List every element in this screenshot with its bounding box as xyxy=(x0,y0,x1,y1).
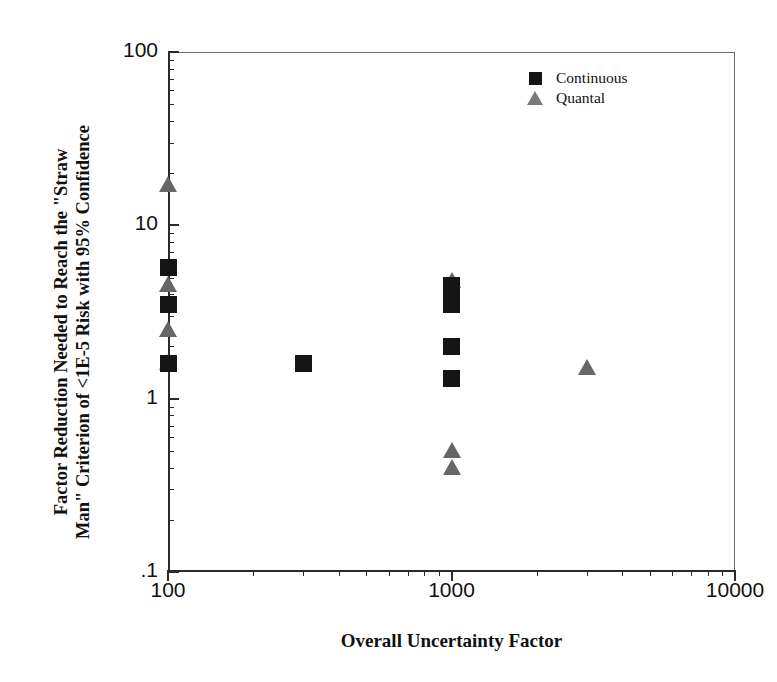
y-axis-tick-minor xyxy=(168,426,174,427)
y-axis-title-line2: Man" Criterion of <1E-5 Risk with 95% Co… xyxy=(73,125,93,539)
x-axis-tick-label: 100 xyxy=(113,578,223,602)
y-axis-tick-major xyxy=(168,571,179,573)
y-axis-tick-minor xyxy=(168,90,174,91)
square-marker-icon xyxy=(522,72,548,85)
data-point-continuous xyxy=(160,259,177,276)
x-axis-tick-minor xyxy=(672,570,673,576)
legend-label-continuous: Continuous xyxy=(548,69,627,87)
x-axis-tick-minor xyxy=(587,570,588,576)
data-point-continuous xyxy=(443,296,460,313)
x-axis-tick-label: 10000 xyxy=(680,578,777,602)
data-point-continuous xyxy=(443,338,460,355)
scan-artifact-band xyxy=(0,0,777,26)
x-axis-title: Overall Uncertainty Factor xyxy=(168,630,735,652)
y-axis-title-line1: Factor Reduction Needed to Reach the "St… xyxy=(51,149,71,516)
y-axis-tick-label: 10 xyxy=(96,211,158,235)
y-axis-tick-minor xyxy=(168,489,174,490)
data-point-continuous xyxy=(443,370,460,387)
data-point-quantal xyxy=(159,321,177,337)
y-axis-tick-label: 1 xyxy=(96,385,158,409)
legend-item-continuous: Continuous xyxy=(522,68,627,88)
legend-item-quantal: Quantal xyxy=(522,88,627,108)
y-axis-tick-minor xyxy=(168,104,174,105)
x-axis-tick-minor xyxy=(389,570,390,576)
y-axis-tick-minor xyxy=(168,407,174,408)
data-point-continuous xyxy=(160,355,177,372)
y-axis-tick-label: 100 xyxy=(96,38,158,62)
data-point-quantal xyxy=(443,459,461,475)
y-axis-tick-minor xyxy=(168,69,174,70)
y-axis-tick-minor xyxy=(168,468,174,469)
x-axis-tick-minor xyxy=(537,570,538,576)
y-axis-tick-minor xyxy=(168,252,174,253)
data-point-quantal xyxy=(159,176,177,192)
data-point-quantal xyxy=(578,359,596,375)
y-axis-tick-major xyxy=(168,398,179,400)
legend-label-quantal: Quantal xyxy=(548,89,605,107)
data-point-continuous xyxy=(160,296,177,313)
data-point-continuous xyxy=(295,355,312,372)
y-axis-tick-minor xyxy=(168,520,174,521)
x-axis-tick-label: 1000 xyxy=(397,578,507,602)
y-axis-tick-minor xyxy=(168,316,174,317)
x-axis-tick-minor xyxy=(303,570,304,576)
legend: Continuous Quantal xyxy=(522,68,627,108)
y-axis-tick-major xyxy=(168,224,179,226)
x-axis-tick-minor xyxy=(691,570,692,576)
y-axis-tick-minor xyxy=(168,143,174,144)
triangle-marker-icon xyxy=(522,91,548,105)
x-axis-tick-minor xyxy=(366,570,367,576)
data-point-quantal xyxy=(159,276,177,292)
y-axis-tick-minor xyxy=(168,79,174,80)
scatter-plot-figure: Factor Reduction Needed to Reach the "St… xyxy=(0,0,777,682)
x-axis-tick-minor xyxy=(650,570,651,576)
x-axis-tick-minor xyxy=(708,570,709,576)
x-axis-tick-minor xyxy=(424,570,425,576)
y-axis-tick-minor xyxy=(168,173,174,174)
x-axis-tick-minor xyxy=(339,570,340,576)
x-axis-tick-minor xyxy=(622,570,623,576)
y-axis-tick-minor xyxy=(168,233,174,234)
y-axis-tick-minor xyxy=(168,60,174,61)
y-axis-tick-minor xyxy=(168,437,174,438)
x-axis-tick-minor xyxy=(408,570,409,576)
x-axis-tick-minor xyxy=(439,570,440,576)
y-axis-tick-minor xyxy=(168,451,174,452)
data-point-quantal xyxy=(443,442,461,458)
x-axis-tick-minor xyxy=(253,570,254,576)
y-axis-tick-minor xyxy=(168,121,174,122)
y-axis-tick-major xyxy=(168,51,179,53)
y-axis-tick-minor xyxy=(168,346,174,347)
y-axis-tick-minor xyxy=(168,415,174,416)
x-axis-tick-minor xyxy=(722,570,723,576)
y-axis-tick-minor xyxy=(168,242,174,243)
y-axis-title: Factor Reduction Needed to Reach the "St… xyxy=(50,52,94,612)
